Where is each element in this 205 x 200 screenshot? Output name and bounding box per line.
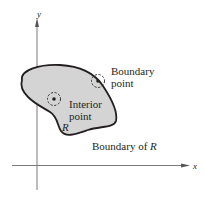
x-axis — [12, 164, 190, 168]
boundary-point-label-line1: Boundary — [111, 65, 155, 77]
y-axis-arrow-icon — [35, 18, 39, 27]
x-axis-arrow-icon — [181, 164, 190, 168]
interior-point-label-line2: point — [69, 110, 92, 122]
boundary-point-label-line2: point — [111, 77, 134, 89]
region-r-label: R — [61, 121, 69, 133]
boundary-of-r-label: Boundary of R — [92, 140, 157, 152]
diagram-canvas: y x Boundary point Interior point R Boun… — [0, 0, 205, 200]
boundary-of-var: R — [149, 140, 157, 152]
region-diagram: y x Boundary point Interior point R Boun… — [0, 0, 205, 200]
y-axis-label: y — [36, 9, 41, 19]
boundary-of-prefix: Boundary of — [92, 140, 150, 152]
interior-point-label-line1: Interior — [69, 98, 102, 110]
boundary-point-dot-icon — [96, 79, 100, 83]
x-axis-label: x — [192, 161, 197, 171]
interior-point-dot-icon — [52, 97, 56, 101]
